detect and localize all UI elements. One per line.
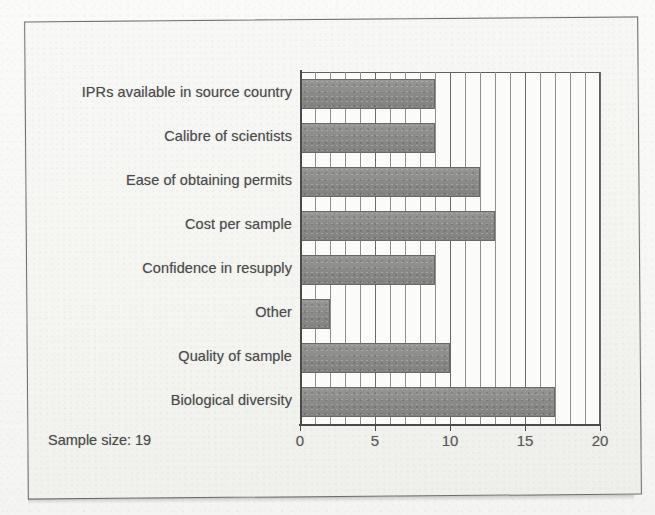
x-tick-label: 5 bbox=[355, 432, 395, 449]
x-tick-label: 0 bbox=[280, 432, 320, 449]
bar bbox=[300, 387, 555, 417]
x-tick bbox=[600, 424, 601, 431]
bar-chart: IPRs available in source countryCalibre … bbox=[0, 0, 655, 515]
bar-row bbox=[300, 116, 600, 160]
bar bbox=[300, 167, 480, 197]
bar bbox=[300, 79, 435, 109]
bar bbox=[300, 123, 435, 153]
category-label: Calibre of scientists bbox=[32, 128, 292, 144]
category-label: Biological diversity bbox=[32, 392, 292, 408]
y-axis-line bbox=[300, 70, 302, 426]
x-tick bbox=[525, 424, 526, 431]
plot-area bbox=[300, 72, 600, 424]
sample-size-note: Sample size: 19 bbox=[48, 432, 151, 448]
bar-row bbox=[300, 160, 600, 204]
category-label: IPRs available in source country bbox=[32, 84, 292, 100]
bar-row bbox=[300, 72, 600, 116]
category-label: Other bbox=[32, 304, 292, 320]
bar bbox=[300, 211, 495, 241]
chart-screenshot: IPRs available in source countryCalibre … bbox=[0, 0, 655, 515]
bar-row bbox=[300, 336, 600, 380]
category-label: Cost per sample bbox=[32, 216, 292, 232]
x-tick bbox=[300, 424, 301, 431]
category-label: Ease of obtaining permits bbox=[32, 172, 292, 188]
bar bbox=[300, 255, 435, 285]
bar-row bbox=[300, 248, 600, 292]
x-tick bbox=[375, 424, 376, 431]
bar-row bbox=[300, 204, 600, 248]
bar bbox=[300, 343, 450, 373]
category-label: Quality of sample bbox=[32, 348, 292, 364]
bar-row bbox=[300, 380, 600, 424]
category-labels: IPRs available in source countryCalibre … bbox=[28, 72, 292, 424]
x-tick-label: 20 bbox=[580, 432, 620, 449]
gridline-20 bbox=[600, 72, 601, 424]
category-label: Confidence in resupply bbox=[32, 260, 292, 276]
x-tick-label: 15 bbox=[505, 432, 545, 449]
bar bbox=[300, 299, 330, 329]
x-tick-label: 10 bbox=[430, 432, 470, 449]
x-tick bbox=[450, 424, 451, 431]
bar-row bbox=[300, 292, 600, 336]
